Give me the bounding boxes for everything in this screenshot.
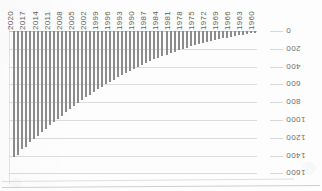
y-axis-tick — [270, 173, 283, 174]
bar — [105, 31, 107, 84]
bar — [153, 31, 155, 59]
x-axis-tick-label: 1993 — [115, 11, 124, 30]
x-axis-labels: 2020201720142011200820052002199919961993… — [12, 0, 262, 30]
bar — [202, 31, 204, 43]
x-axis-tick-label: 2008 — [55, 11, 64, 30]
bar — [121, 31, 123, 75]
bar — [250, 31, 252, 33]
x-axis-tick-label: 1972 — [199, 11, 208, 30]
bar — [13, 31, 15, 157]
bar — [133, 31, 135, 69]
x-axis-tick-label: 2005 — [67, 11, 76, 30]
bar — [17, 31, 19, 155]
y-axis-tick — [270, 156, 283, 157]
x-axis-tick-label: 1966 — [223, 11, 232, 30]
bar — [149, 31, 151, 61]
plot-area — [12, 31, 257, 176]
bar — [238, 31, 240, 35]
y-axis-labels: 02004006008001000120014001600 — [286, 0, 320, 191]
bar — [93, 31, 95, 92]
scan-artifact-bottom-border — [2, 185, 320, 188]
bar — [61, 31, 63, 116]
bar — [141, 31, 143, 65]
bar — [77, 31, 79, 103]
y-axis-tick-label: 1200 — [286, 133, 318, 142]
x-axis-tick-label: 1969 — [211, 11, 220, 30]
x-axis-tick-label: 1996 — [103, 11, 112, 30]
bar — [210, 31, 212, 41]
bar — [45, 31, 47, 129]
bar — [65, 31, 67, 112]
y-axis-tick — [270, 120, 283, 121]
bar — [230, 31, 232, 37]
y-axis-tick-label: 400 — [286, 62, 318, 71]
y-axis-tick — [270, 138, 283, 139]
x-axis-tick-label: 1981 — [163, 11, 172, 30]
bar — [53, 31, 55, 122]
bar — [29, 31, 31, 142]
y-axis-tick — [270, 84, 283, 85]
bar — [21, 31, 23, 149]
y-axis-tick-label: 800 — [286, 97, 318, 106]
chart-page: 02004006008001000120014001600 2020201720… — [0, 0, 322, 191]
bar — [145, 31, 147, 63]
bar — [254, 31, 256, 33]
bar — [206, 31, 208, 42]
bar — [101, 31, 103, 87]
y-axis-tick — [270, 31, 283, 32]
x-axis-tick-label: 1975 — [187, 11, 196, 30]
bar — [178, 31, 180, 50]
bar — [37, 31, 39, 136]
bar — [190, 31, 192, 46]
x-axis-tick-label: 2017 — [18, 11, 27, 30]
bar — [234, 31, 236, 36]
bar — [137, 31, 139, 67]
bar — [85, 31, 87, 97]
y-axis-tick-label: 1000 — [286, 115, 318, 124]
x-axis-tick-label: 1987 — [139, 11, 148, 30]
bar — [117, 31, 119, 77]
bar — [25, 31, 27, 147]
y-axis-tick-label: 600 — [286, 79, 318, 88]
bar — [33, 31, 35, 139]
x-axis-tick-label: 1999 — [91, 11, 100, 30]
x-axis-tick-label: 2002 — [79, 11, 88, 30]
bar — [242, 31, 244, 35]
bar — [174, 31, 176, 52]
x-axis-tick-label: 1990 — [127, 11, 136, 30]
bar-series — [12, 31, 257, 176]
bar — [157, 31, 159, 58]
bar — [246, 31, 248, 34]
x-axis-tick-label: 1960 — [247, 11, 256, 30]
bar — [129, 31, 131, 71]
bar — [198, 31, 200, 44]
bar — [170, 31, 172, 53]
bar — [226, 31, 228, 38]
x-axis-tick-label: 2014 — [31, 11, 40, 30]
x-axis-tick-label: 2020 — [6, 11, 15, 30]
y-axis-tick-label: 1400 — [286, 151, 318, 160]
bar — [186, 31, 188, 48]
bar — [89, 31, 91, 95]
y-axis-tick-label: 0 — [286, 26, 318, 35]
bar — [194, 31, 196, 45]
bar — [81, 31, 83, 100]
bar — [113, 31, 115, 80]
y-axis-tick — [270, 49, 283, 50]
bar — [182, 31, 184, 49]
bar — [109, 31, 111, 82]
x-axis-tick-label: 1963 — [235, 11, 244, 30]
bar — [218, 31, 220, 39]
bar — [214, 31, 216, 40]
y-axis-tick — [270, 67, 283, 68]
bar — [41, 31, 43, 132]
bar — [125, 31, 127, 73]
scan-artifact-bottom-border-2 — [2, 178, 294, 182]
bar — [97, 31, 99, 89]
y-axis-tick-label: 200 — [286, 44, 318, 53]
x-axis-tick-label: 1978 — [175, 11, 184, 30]
bar — [161, 31, 163, 56]
y-axis-tick — [270, 102, 283, 103]
bar — [57, 31, 59, 119]
bar — [222, 31, 224, 38]
